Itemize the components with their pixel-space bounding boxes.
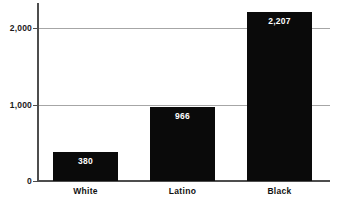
bar-value-white: 380: [53, 156, 118, 166]
category-label-white: White: [53, 186, 118, 196]
bar-chart: 2,000 1,000 0 380 966 2,207 White Latino…: [0, 0, 340, 205]
bar-latino[interactable]: 966: [150, 107, 215, 181]
bar-black[interactable]: 2,207: [247, 12, 312, 181]
bar-value-latino: 966: [150, 111, 215, 121]
bar-white[interactable]: 380: [53, 152, 118, 181]
bar-value-black: 2,207: [247, 16, 312, 26]
category-label-black: Black: [247, 186, 312, 196]
category-label-latino: Latino: [150, 186, 215, 196]
bars-layer: 380 966 2,207 White Latino Black: [0, 0, 340, 205]
